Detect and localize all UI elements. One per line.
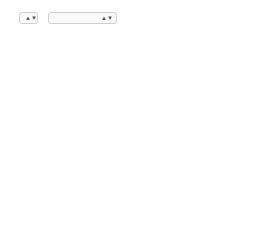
attention-lines <box>0 0 254 250</box>
controls-bar: ▲▼ ▲▼ <box>16 11 117 25</box>
attention-select[interactable]: ▲▼ <box>48 12 117 24</box>
stepper-arrows-icon: ▲▼ <box>25 15 37 21</box>
layer-select[interactable]: ▲▼ <box>19 12 38 24</box>
stepper-arrows-icon: ▲▼ <box>101 15 113 21</box>
